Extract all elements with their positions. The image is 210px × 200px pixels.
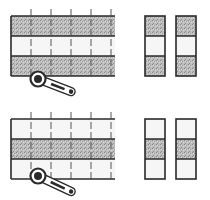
fabric-band-light bbox=[11, 36, 115, 56]
diagram-canvas bbox=[0, 0, 210, 200]
cut-segment-2 bbox=[176, 16, 196, 76]
segment-band-light bbox=[145, 159, 165, 179]
segment-band-dark bbox=[176, 16, 196, 36]
cut-segment-1 bbox=[145, 16, 165, 76]
segment-band-light bbox=[176, 159, 196, 179]
segment-band-light bbox=[145, 36, 165, 56]
fabric-band-dark bbox=[11, 16, 115, 36]
cut-segment-2 bbox=[176, 119, 196, 179]
panel-top-strip-set bbox=[11, 9, 196, 97]
segment-band-dark bbox=[176, 139, 196, 159]
cutter-hub bbox=[34, 75, 42, 83]
segment-band-light bbox=[145, 119, 165, 139]
segment-band-light bbox=[176, 36, 196, 56]
segment-band-dark bbox=[176, 56, 196, 76]
cut-segment-1 bbox=[145, 119, 165, 179]
fabric-band-dark bbox=[11, 139, 115, 159]
segment-band-light bbox=[176, 119, 196, 139]
fabric-band-dark bbox=[11, 56, 115, 76]
fabric-band-light bbox=[11, 119, 115, 139]
fabric-band-light bbox=[11, 159, 115, 179]
panel-bottom-strip-set bbox=[11, 112, 196, 197]
segment-band-dark bbox=[145, 16, 165, 36]
segment-band-dark bbox=[145, 139, 165, 159]
segment-band-dark bbox=[145, 56, 165, 76]
cutter-hub bbox=[34, 172, 42, 180]
quilting-diagram bbox=[0, 0, 210, 200]
